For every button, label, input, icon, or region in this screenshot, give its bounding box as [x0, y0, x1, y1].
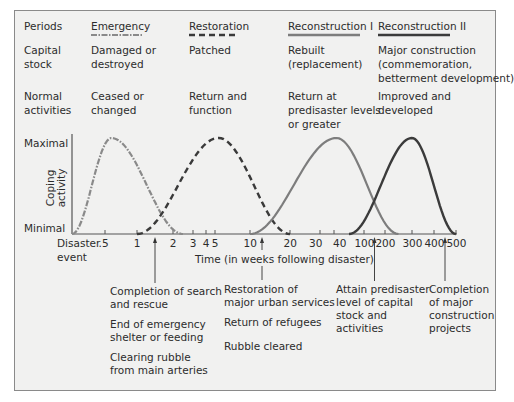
milestone-3-3: stock and [336, 309, 387, 322]
milestone-2-a-1: Restoration of [224, 283, 298, 296]
milestone-3-1: Attain predisaster [336, 283, 430, 296]
x-tick-label: 400 [424, 237, 444, 250]
milestone-3-4: activities [336, 322, 383, 335]
x-tick-label: 3 [190, 237, 197, 250]
milestone-2-a-2: major urban services [224, 296, 335, 309]
x-tick-label: 20 [284, 237, 297, 250]
milestone-3-2: level of capital [336, 296, 413, 309]
milestone-1-b-1: End of emergency [110, 318, 206, 331]
curve-restoration [137, 138, 290, 234]
milestone-2-b-1: Return of refugees [224, 316, 322, 329]
x-tick-label: 300 [402, 237, 422, 250]
milestone-4-1: Completion [429, 283, 489, 296]
milestone-1-a-1: Completion of search [110, 285, 222, 298]
x-tick-label: 100 [354, 237, 374, 250]
x-origin-label-1: Disaster [57, 237, 100, 250]
milestone-2-c-1: Rubble cleared [224, 340, 302, 353]
x-tick-label: 500 [446, 237, 466, 250]
x-tick-label: 200 [375, 237, 395, 250]
milestone-4-4: projects [429, 322, 471, 335]
milestone-1-c-2: from main arteries [110, 364, 208, 377]
milestone-1-c-1: Clearing rubble [110, 351, 191, 364]
milestone-4-3: construction [429, 309, 494, 322]
x-axis-title: Time (in weeks following disaster) [195, 253, 374, 266]
milestone-1-a-2: and rescue [110, 298, 168, 311]
x-tick-label: 1 [134, 237, 141, 250]
x-tick-label: 10 [244, 237, 257, 250]
x-tick-label: 4 [203, 237, 210, 250]
milestone-1-b-2: shelter or feeding [110, 331, 203, 344]
curve-emergency [72, 138, 183, 234]
x-tick-label: 40 [333, 237, 346, 250]
x-origin-label-2: event [57, 251, 87, 264]
curve-reconstruction-ii [349, 138, 456, 234]
curve-reconstruction-i [250, 138, 399, 234]
x-tick-label: .5 [99, 237, 109, 250]
x-tick-label: 2 [170, 237, 177, 250]
milestone-4-2: of major [429, 296, 473, 309]
x-tick-label: 30 [309, 237, 322, 250]
x-tick-label: 5 [212, 237, 219, 250]
arrowhead-icon [153, 237, 157, 243]
